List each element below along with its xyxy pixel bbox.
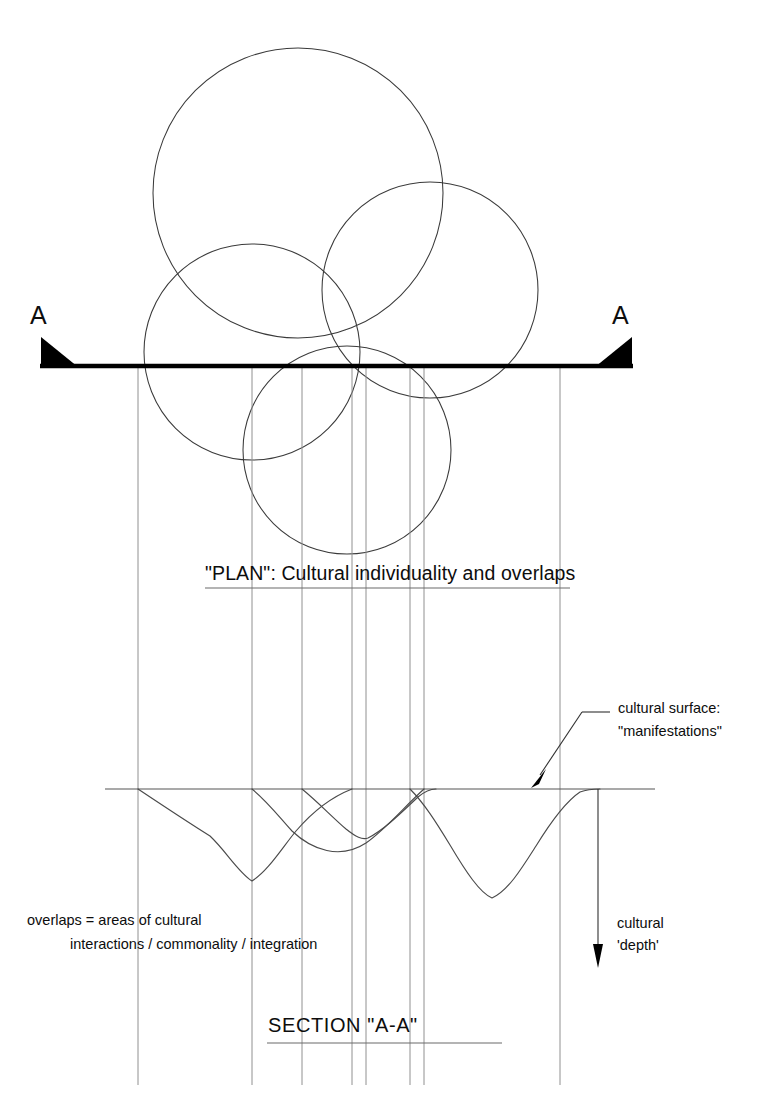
section-arrow-right (595, 337, 632, 367)
cultural-surface-annotation-group (531, 712, 610, 788)
profile-curve-circle-1 (138, 789, 352, 881)
section-profile-curves-group (138, 789, 600, 898)
plan-circle-4-lower-center (243, 346, 451, 554)
projection-lines-group (138, 366, 560, 1085)
cultural-depth-annotation-group (593, 789, 603, 968)
cultural-depth-arrowhead (593, 944, 603, 968)
cultural-surface-arrowhead (531, 769, 546, 788)
cultural-surface-leader-diagonal (540, 712, 582, 775)
cultural-surface-label-line1: cultural surface: (618, 699, 720, 718)
cultural-depth-label-line1: cultural (617, 914, 664, 933)
cultural-surface-label-line2: "manifestations" (618, 722, 722, 741)
profile-curve-circle-3 (252, 789, 424, 852)
section-title: SECTION "A-A" (268, 1014, 418, 1037)
plan-title: "PLAN": Cultural individuality and overl… (205, 562, 575, 585)
cultural-depth-label-line2: 'depth' (617, 936, 659, 955)
section-mark-left-a: A (30, 301, 47, 330)
profile-curve-circle-4 (410, 789, 600, 898)
plan-circles-group (144, 48, 538, 554)
diagram-canvas: A A "PLAN": Cultural individuality and o… (0, 0, 766, 1109)
section-cut-line-group (40, 337, 633, 367)
section-arrow-left (41, 337, 78, 367)
overlaps-note-line1: overlaps = areas of cultural (27, 911, 202, 930)
plan-circle-1-large-top (153, 48, 443, 338)
overlaps-note-line2: interactions / commonality / integration (70, 935, 317, 954)
section-mark-right-a: A (612, 301, 629, 330)
